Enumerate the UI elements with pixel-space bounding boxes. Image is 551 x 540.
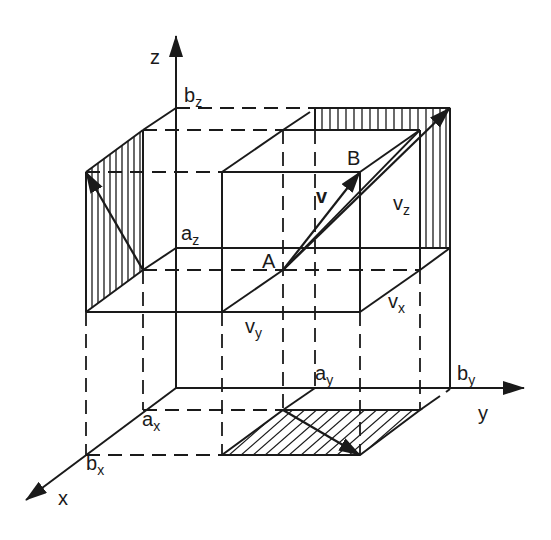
x-axis xyxy=(26,388,176,500)
point-b-label: B xyxy=(347,147,360,169)
x-axis-label: x xyxy=(58,487,68,509)
construction-lines xyxy=(86,108,420,455)
a-z-label: az xyxy=(181,222,199,248)
b-x-label: bx xyxy=(86,452,104,478)
b-y-label: by xyxy=(457,362,475,388)
vector-v-label: v xyxy=(316,185,328,207)
v-y-label: vy xyxy=(245,315,262,341)
yz-projection-vector xyxy=(283,108,450,270)
b-z-label: bz xyxy=(184,84,202,110)
a-y-label: ay xyxy=(315,362,333,388)
vector-components-diagram: z y x bz az ax bx ay by A B v vz vx vy xyxy=(0,0,551,540)
point-a-label: A xyxy=(262,250,276,272)
a-x-label: ax xyxy=(142,408,160,434)
yz-projection-hatch xyxy=(322,100,446,260)
z-axis-label: z xyxy=(150,46,160,68)
xz-projection-outline xyxy=(143,108,176,130)
v-x-label: vx xyxy=(388,290,405,316)
v-z-label: vz xyxy=(393,192,410,218)
y-axis-label: y xyxy=(478,402,488,424)
